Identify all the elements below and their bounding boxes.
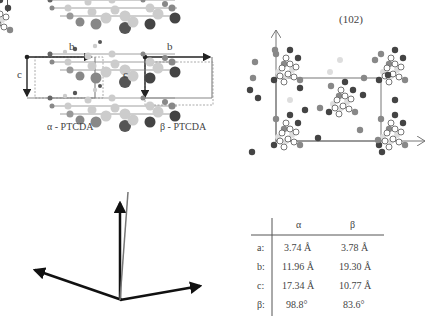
table-header-beta: β bbox=[350, 219, 355, 230]
table-row-beta-angle-beta: 83.6° bbox=[343, 299, 365, 310]
table-row-a-alpha: 3.74 Å bbox=[284, 242, 311, 253]
table-row-beta-angle-alpha: 98.8° bbox=[286, 299, 308, 310]
plane-label: (102) bbox=[339, 13, 363, 25]
alpha-ptcda-caption: α - PTCDA bbox=[47, 121, 93, 132]
lattice-parameters-table: α β a: 3.74 Å 3.78 Å b: 11.96 Å 19.30 Å … bbox=[250, 219, 390, 319]
table-row-beta-angle-label: β: bbox=[257, 299, 265, 310]
table-row-a-beta: 3.78 Å bbox=[341, 242, 368, 253]
beta-axis-b-label: b bbox=[167, 40, 173, 52]
table-header-alpha: α bbox=[296, 219, 301, 230]
table-row-b-beta: 19.30 Å bbox=[339, 261, 371, 272]
table-row-b-label: b: bbox=[257, 261, 265, 272]
table-row-c-label: c: bbox=[257, 280, 264, 291]
stacked-molecules-3d bbox=[35, 0, 200, 300]
alpha-axis-c-label: c bbox=[17, 68, 22, 80]
beta-ptcda-caption: β - PTCDA bbox=[160, 121, 206, 132]
table-row-b-alpha: 11.96 Å bbox=[282, 261, 314, 272]
alpha-axis-b-label: b bbox=[69, 40, 75, 52]
table-row-c-alpha: 17.34 Å bbox=[282, 280, 314, 291]
table-row-c-beta: 10.77 Å bbox=[339, 280, 371, 291]
beta-axis-c-label: c bbox=[123, 68, 128, 80]
table-row-a-label: a: bbox=[257, 242, 264, 253]
